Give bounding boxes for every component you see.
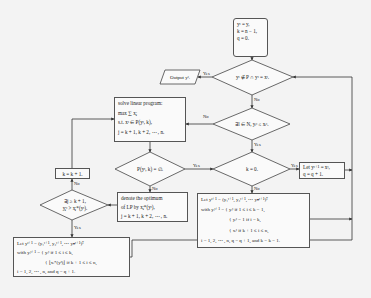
solve-lp-line-4: j = k + 1, k + 2, ⋯ , n. (118, 128, 182, 138)
let-br-line-1: Let yᵗ⁺¹ = (y₁ᵗ⁺¹, y₂ᵗ⁺¹, ⋯ yₙᵗ⁺¹)ᵀ (201, 195, 306, 205)
solve-lp-line-3: s.t. xᵗ ∈ P(yᵗ, k), (118, 118, 182, 128)
denote-line-3: j = k + 1, k + 2, ⋯ , n. (121, 212, 184, 221)
label-yes-output: Yes (203, 71, 210, 76)
k-increment-text: k = k + 1. (62, 171, 82, 177)
let-bl-line-2: with yᵢᵗ⁺¹ = { yᵢᵗ if 1 ≤ i ≤ k, (17, 248, 126, 257)
k-increment-node: k = k + 1. (55, 168, 90, 179)
decision-exists-j-line-2: yⱼᵗ > xⱼ*(yᵗ). (63, 205, 88, 212)
solve-lp-line-1: solve linear program: (118, 99, 182, 109)
label-yes-exists-j: Yes (74, 225, 81, 230)
let-right-line-2: q = q + 1. (303, 171, 341, 178)
let-right-node: Let yᵗ⁺¹ = xᵗ, q = q + 1. (299, 162, 345, 179)
label-no-empty: No (152, 186, 158, 191)
denote-line-2: of LP by xⱼ*(yᵗ), (121, 203, 184, 212)
label-no-exists-l: No (203, 114, 209, 119)
let-bottom-left-node: Let yᵗ⁺¹ = (y₁ᵗ⁺¹, y₂ᵗ⁺¹, ⋯ yₙᵗ⁺¹)ᵀ with… (13, 237, 130, 277)
start-line-2: k = n − 1, (237, 28, 264, 35)
let-bl-line-1: Let yᵗ⁺¹ = (y₁ᵗ⁺¹, y₂ᵗ⁺¹, ⋯ yₙᵗ⁺¹)ᵀ (17, 239, 126, 248)
decision-empty-text: P(yᵗ, k) = ∅. (122, 162, 178, 176)
start-line-1: yᵗ = y, (237, 21, 264, 28)
decision-feasible-text: yᵗ ∉ P ∩ yᵗ = xᵗ. (215, 70, 290, 84)
label-no-k-zero: No (254, 186, 260, 191)
output-text: Output yᵗ. (162, 70, 198, 84)
solve-lp-node: solve linear program: max ∑ xⱼ s.t. xᵗ ∈… (114, 97, 186, 142)
label-yes-exists-l: Yes (254, 142, 261, 147)
let-br-line-3: { yᵢᵗ − 1 if i = k, (201, 215, 306, 225)
let-bottom-right-node: Let yᵗ⁺¹ = (y₁ᵗ⁺¹, y₂ᵗ⁺¹, ⋯ yₙᵗ⁺¹)ᵀ with… (197, 193, 310, 248)
decision-exists-l-text: ∃l ∈ N, yₗᵗ ≤ xₗᵗ. (218, 117, 286, 131)
label-yes-empty: Yes (193, 163, 200, 168)
let-br-line-2: with yᵢᵗ⁺¹ = { yᵢᵗ if 1 ≤ i ≤ k − 1, (201, 205, 306, 215)
let-bl-line-4: i = 1, 2, ⋯ , n, and q = q + 1. (17, 267, 126, 276)
denote-line-1: denote the optimum (121, 194, 184, 203)
let-bl-line-3: { ⌊xᵢ*(yᵗ)⌋ if k + 1 ≤ i ≤ n, (17, 258, 126, 267)
denote-node: denote the optimum of LP by xⱼ*(yᵗ), j =… (117, 192, 188, 222)
let-br-line-5: i = 1, 2, ⋯ , n, q = q + 1, and k = k − … (201, 236, 306, 246)
start-node: yᵗ = y, k = n − 1, q = 0. (233, 18, 268, 57)
label-no-feasible: No (254, 97, 260, 102)
label-no-exists-j: No (74, 181, 80, 186)
decision-exists-j-text: ∃j ≥ k + 1, yⱼᵗ > xⱼ*(yᵗ). (50, 198, 100, 212)
start-line-3: q = 0. (237, 35, 264, 42)
decision-k-zero-text: k = 0. (230, 162, 274, 176)
solve-lp-line-2: max ∑ xⱼ (118, 109, 182, 119)
label-yes-k-zero: Yes (291, 163, 298, 168)
let-right-line-1: Let yᵗ⁺¹ = xᵗ, (303, 164, 341, 171)
let-br-line-4: { xᵢᵗ if k + 1 ≤ i ≤ n, (201, 226, 306, 236)
decision-exists-j-line-1: ∃j ≥ k + 1, (64, 198, 86, 205)
